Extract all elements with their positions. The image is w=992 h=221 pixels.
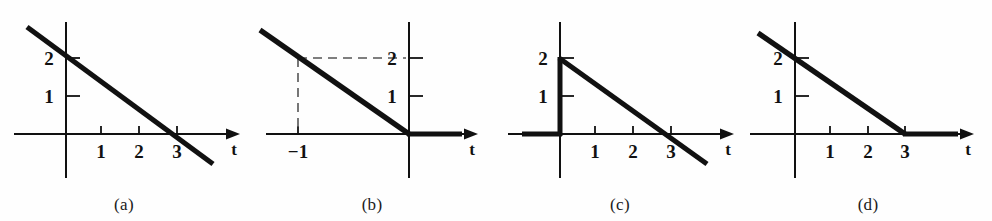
signal-ramp: [260, 30, 409, 134]
x-label-2: 2: [628, 141, 638, 162]
x-label-3: 3: [172, 141, 182, 162]
x-label-1: 1: [825, 141, 835, 162]
x-axis-arrowhead: [464, 129, 478, 140]
figure-container: 2 1 1 2 3 t (a): [0, 0, 992, 221]
panel-c-plot: 2 1 1 2 3 t: [496, 0, 744, 190]
x-axis-title: t: [469, 140, 475, 159]
x-axis-arrowhead: [720, 129, 734, 140]
y-label-2: 2: [44, 48, 54, 69]
signal-line: [27, 27, 213, 164]
x-axis-arrowhead: [226, 129, 240, 140]
x-label-2: 2: [134, 141, 144, 162]
y-label-2: 2: [538, 48, 548, 69]
y-label-1: 1: [773, 86, 783, 107]
x-axis-title: t: [725, 140, 731, 159]
x-axis-title: t: [231, 140, 237, 159]
x-label-1: 1: [590, 141, 600, 162]
panel-b-plot: 2 1 −1 t: [248, 0, 496, 190]
panel-a-plot: 2 1 1 2 3 t: [0, 0, 248, 190]
panel-b-caption: (b): [248, 195, 496, 215]
panel-a-caption: (a): [0, 195, 248, 215]
panel-c: 2 1 1 2 3 t (c): [496, 0, 744, 221]
y-label-2: 2: [387, 48, 397, 69]
panel-d-caption: (d): [744, 195, 992, 215]
x-axis-title: t: [965, 140, 971, 159]
x-label-2: 2: [863, 141, 873, 162]
x-label-3: 3: [900, 141, 910, 162]
x-axis-arrowhead: [960, 129, 974, 140]
x-label-1: 1: [96, 141, 106, 162]
y-label-2: 2: [773, 48, 783, 69]
panel-c-caption: (c): [496, 195, 744, 215]
x-label-3: 3: [666, 141, 676, 162]
y-label-1: 1: [387, 86, 397, 107]
x-label-minus1: −1: [288, 141, 308, 162]
panel-a: 2 1 1 2 3 t (a): [0, 0, 248, 221]
y-label-1: 1: [538, 86, 548, 107]
panel-b: 2 1 −1 t (b): [248, 0, 496, 221]
panel-d: 2 1 1 2 3 t (d): [744, 0, 992, 221]
panel-d-plot: 2 1 1 2 3 t: [744, 0, 992, 190]
y-label-1: 1: [44, 86, 54, 107]
